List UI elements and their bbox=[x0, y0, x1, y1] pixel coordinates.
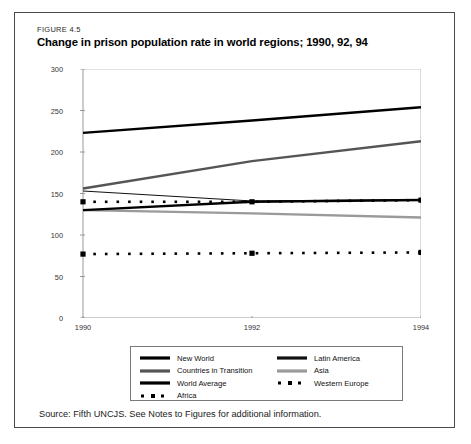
legend-label: Western Europe bbox=[314, 379, 369, 388]
y-tick-label: 0 bbox=[37, 314, 63, 323]
y-tick-label: 250 bbox=[37, 106, 63, 115]
legend-label: Asia bbox=[314, 366, 329, 375]
y-tick-label: 150 bbox=[37, 189, 63, 198]
y-tick-label: 200 bbox=[37, 148, 63, 157]
source-note: Source: Fifth UNCJS. See Notes to Figure… bbox=[39, 409, 321, 419]
figure-frame: FIGURE 4.5 Change in prison population r… bbox=[14, 12, 455, 428]
legend-swatch-icon bbox=[139, 378, 171, 388]
x-tick-label: 1992 bbox=[244, 323, 260, 332]
legend-column-left: New WorldCountries in TransitionWorld Av… bbox=[139, 352, 253, 402]
legend-label: Africa bbox=[177, 391, 196, 400]
legend-item: Countries in Transition bbox=[139, 365, 253, 377]
legend-swatch-icon bbox=[139, 353, 171, 363]
legend-label: Countries in Transition bbox=[177, 366, 253, 375]
x-tick-label: 1994 bbox=[413, 323, 429, 332]
y-tick-label: 50 bbox=[37, 272, 63, 281]
legend-item: Western Europe bbox=[276, 377, 369, 389]
legend-item: Latin America bbox=[276, 352, 369, 364]
legend-label: New World bbox=[177, 354, 214, 363]
legend-item: Africa bbox=[139, 390, 253, 402]
legend-swatch-icon bbox=[276, 353, 308, 363]
legend-item: New World bbox=[139, 352, 253, 364]
legend-swatch-icon bbox=[139, 366, 171, 376]
legend-item: Asia bbox=[276, 365, 369, 377]
legend-column-right: Latin AmericaAsiaWestern Europe bbox=[276, 352, 369, 390]
x-axis-tick-labels: 199019921994 bbox=[69, 323, 421, 337]
legend-label: Latin America bbox=[314, 354, 360, 363]
legend-swatch-icon bbox=[139, 391, 171, 401]
x-tick-label: 1990 bbox=[75, 323, 91, 332]
legend-label: World Average bbox=[177, 379, 227, 388]
legend-swatch-icon bbox=[276, 378, 308, 388]
legend-item: World Average bbox=[139, 377, 253, 389]
y-tick-label: 300 bbox=[37, 65, 63, 74]
y-tick-label: 100 bbox=[37, 231, 63, 240]
figure-title: Change in prison population rate in worl… bbox=[37, 36, 368, 48]
legend-swatch-icon bbox=[276, 366, 308, 376]
chart-legend: New WorldCountries in TransitionWorld Av… bbox=[130, 346, 403, 401]
plot-area bbox=[69, 69, 421, 318]
chart-lines bbox=[69, 69, 421, 318]
figure-number: FIGURE 4.5 bbox=[37, 25, 81, 34]
y-axis-tick-labels: 050100150200250300 bbox=[33, 69, 63, 318]
